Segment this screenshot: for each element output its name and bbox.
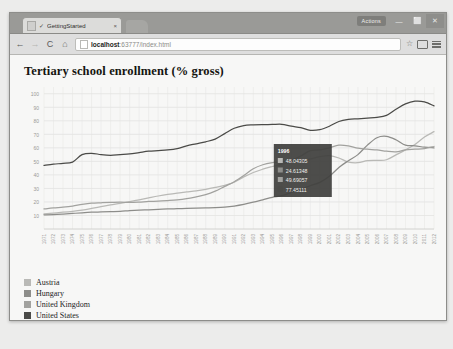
- x-axis-tick-label: 1991: [232, 234, 237, 245]
- series-line[interactable]: [44, 101, 434, 165]
- chart-title: Tertiary school enrollment (% gross): [24, 64, 224, 79]
- maximize-button[interactable]: ⬜: [408, 14, 426, 28]
- legend-item[interactable]: United States: [24, 310, 90, 320]
- legend-label: United Kingdom: [36, 300, 90, 309]
- x-axis-tick-label: 1977: [99, 234, 104, 245]
- x-axis-tick-label: 1983: [156, 234, 161, 245]
- y-axis-tick-label: 100: [31, 91, 40, 97]
- minimize-button[interactable]: —: [390, 14, 408, 28]
- legend-item[interactable]: Austria: [24, 277, 90, 287]
- line-chart[interactable]: 1020304050607080901001971197219731974197…: [10, 81, 446, 281]
- legend-item[interactable]: United Kingdom: [24, 299, 90, 309]
- toolbar-icons: ☆: [406, 40, 441, 49]
- x-axis-tick-label: 2012: [432, 234, 437, 245]
- x-axis-tick-label: 1975: [80, 234, 85, 245]
- y-axis-tick-label: 90: [33, 105, 39, 111]
- y-axis-tick-label: 20: [33, 199, 39, 205]
- browser-tab-gettingstarted[interactable]: ✓ GettingStarted ×: [22, 17, 122, 33]
- tooltip-value: 77.45111: [286, 187, 307, 193]
- series-line[interactable]: [44, 132, 434, 214]
- tooltip-value: 24.61348: [286, 168, 308, 174]
- forward-icon[interactable]: →: [30, 40, 40, 49]
- x-axis-tick-label: 1984: [165, 234, 170, 245]
- x-axis-tick-label: 2006: [375, 234, 380, 245]
- x-axis-tick-label: 1993: [251, 234, 256, 245]
- x-axis-tick-label: 2005: [365, 234, 370, 245]
- x-axis-tick-label: 1998: [298, 234, 303, 245]
- screenshot-root: ✓ GettingStarted × Actions — ⬜ ✕ ← → C ⌂…: [0, 0, 453, 349]
- legend-label: United States: [36, 311, 79, 320]
- legend-swatch: [24, 290, 31, 297]
- actions-button[interactable]: Actions: [357, 16, 386, 26]
- y-axis-tick-label: 40: [33, 172, 39, 178]
- reload-icon[interactable]: C: [45, 40, 55, 49]
- x-axis-tick-label: 1980: [127, 234, 132, 245]
- x-axis-tick-label: 1982: [146, 234, 151, 245]
- legend-swatch: [24, 279, 31, 286]
- tab-title: GettingStarted: [47, 23, 86, 29]
- x-axis-tick-label: 1978: [108, 234, 113, 245]
- x-axis-tick-label: 2003: [346, 234, 351, 245]
- x-axis-tick-label: 1989: [213, 234, 218, 245]
- chart-svg[interactable]: 1020304050607080901001971197219731974197…: [10, 81, 446, 281]
- home-icon[interactable]: ⌂: [60, 40, 70, 49]
- tooltip-header: 1996: [278, 148, 290, 154]
- browser-window: ✓ GettingStarted × Actions — ⬜ ✕ ← → C ⌂…: [9, 12, 447, 321]
- tooltip-value: 48.04305: [286, 158, 308, 164]
- x-axis-tick-label: 1973: [61, 234, 66, 245]
- x-axis-tick-label: 1987: [194, 234, 199, 245]
- legend-swatch: [24, 312, 31, 319]
- cast-window-icon[interactable]: [417, 40, 428, 49]
- legend-label: Hungary: [36, 289, 64, 298]
- x-axis-tick-label: 1990: [222, 234, 227, 245]
- y-axis-tick-label: 70: [33, 132, 39, 138]
- x-axis-tick-label: 1972: [51, 234, 56, 245]
- close-icon[interactable]: ×: [113, 23, 117, 29]
- window-controls: Actions — ⬜ ✕: [357, 14, 444, 28]
- y-axis-tick-label: 50: [33, 159, 39, 165]
- browser-toolbar: ← → C ⌂ localhost:63777/index.html ☆: [10, 34, 446, 55]
- x-axis-tick-label: 1976: [89, 234, 94, 245]
- close-window-button[interactable]: ✕: [426, 14, 444, 28]
- y-axis-tick-label: 10: [33, 213, 39, 219]
- new-tab-button[interactable]: [126, 20, 148, 33]
- chart-legend: AustriaHungaryUnited KingdomUnited State…: [24, 277, 90, 320]
- legend-swatch: [24, 301, 31, 308]
- x-axis-tick-label: 1999: [308, 234, 313, 245]
- x-axis-tick-label: 1986: [184, 234, 189, 245]
- y-axis-tick-label: 60: [33, 145, 39, 151]
- check-icon: ✓: [39, 23, 44, 29]
- x-axis-tick-label: 2008: [394, 234, 399, 245]
- y-axis-tick-label: 30: [33, 186, 39, 192]
- x-axis-tick-label: 2011: [422, 234, 427, 244]
- menu-icon[interactable]: [432, 41, 441, 48]
- x-axis-tick-label: 1981: [137, 234, 142, 245]
- tooltip-swatch: [278, 187, 283, 192]
- page-info-icon[interactable]: [80, 40, 88, 49]
- legend-item[interactable]: Hungary: [24, 288, 90, 298]
- x-axis-tick-label: 1996: [279, 234, 284, 245]
- tooltip-value: 49.69057: [286, 177, 308, 183]
- legend-label: Austria: [36, 278, 60, 287]
- bookmark-star-icon[interactable]: ☆: [406, 40, 413, 48]
- x-axis-tick-label: 1974: [70, 234, 75, 245]
- x-axis-tick-label: 1992: [241, 234, 246, 245]
- x-axis-tick-label: 1979: [118, 234, 123, 245]
- x-axis-tick-label: 2001: [327, 234, 332, 245]
- x-axis-tick-label: 1995: [270, 234, 275, 245]
- address-bar-text: localhost:63777/index.html: [91, 41, 171, 48]
- x-axis-tick-label: 2000: [317, 234, 322, 245]
- page-content: Tertiary school enrollment (% gross) 102…: [10, 55, 446, 320]
- x-axis-tick-label: 2002: [336, 234, 341, 245]
- address-bar[interactable]: localhost:63777/index.html: [75, 38, 401, 51]
- tooltip-swatch: [278, 177, 283, 182]
- x-axis-tick-label: 2004: [356, 234, 361, 245]
- x-axis-tick-label: 2007: [384, 234, 389, 245]
- x-axis-tick-label: 2009: [403, 234, 408, 245]
- x-axis-tick-label: 2010: [413, 234, 418, 245]
- x-axis-tick-label: 1997: [289, 234, 294, 245]
- browser-title-bar: ✓ GettingStarted × Actions — ⬜ ✕: [10, 13, 446, 34]
- x-axis-tick-label: 1985: [175, 234, 180, 245]
- x-axis-tick-label: 1971: [42, 234, 47, 245]
- back-icon[interactable]: ←: [15, 40, 25, 49]
